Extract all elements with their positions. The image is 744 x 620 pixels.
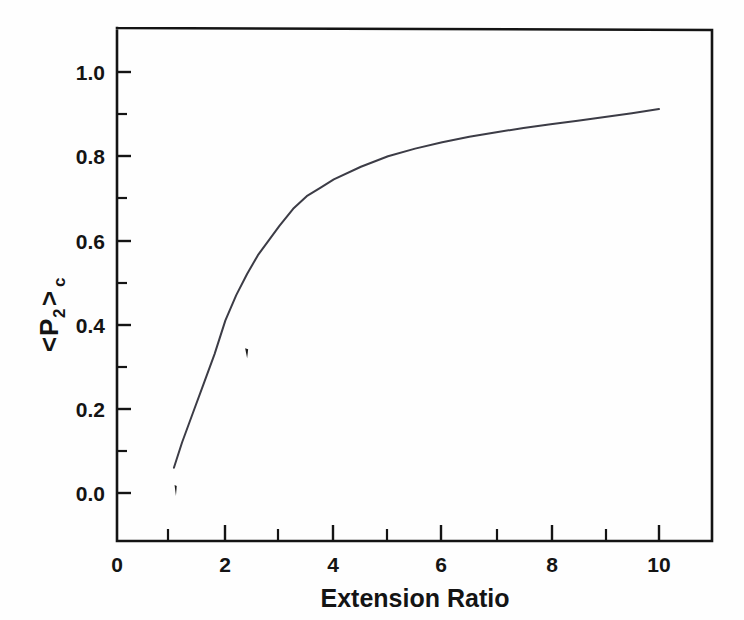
x-tick-label-8: 8: [546, 553, 558, 576]
x-tick-label-0: 0: [111, 553, 123, 576]
y-tick-label-0.4: 0.4: [76, 314, 106, 337]
y-tick-label-0.8: 0.8: [76, 145, 106, 168]
x-tick-label-6: 6: [435, 553, 447, 576]
x-axis-title: Extension Ratio: [321, 584, 510, 612]
chart-figure: 1.0 0.8 0.6 0.4 0.2 0.0 0 2 4 6 8: [0, 0, 744, 620]
y-axis-title: < P 2 > c: [34, 278, 69, 352]
y-tick-label-0.6: 0.6: [76, 230, 105, 253]
y-tick-label-1.0: 1.0: [76, 61, 105, 84]
y-axis-title-open-bracket: <: [34, 337, 64, 352]
x-tick-label-2: 2: [219, 553, 231, 576]
y-tick-label-0.2: 0.2: [76, 398, 105, 421]
y-axis-ticks: [117, 72, 131, 493]
data-curve: [174, 109, 659, 468]
x-tick-label-4: 4: [327, 553, 339, 576]
stray-scan-mark: [245, 348, 248, 358]
y-axis-tick-labels: 1.0 0.8 0.6 0.4 0.2 0.0: [76, 61, 106, 505]
y-axis-title-subscript: 2: [50, 309, 69, 318]
x-axis-ticks: [168, 525, 659, 541]
y-tick-label-0.0: 0.0: [76, 482, 105, 505]
x-tick-label-10: 10: [647, 553, 670, 576]
curve-start-fragment: [175, 485, 177, 496]
x-axis-tick-labels: 0 2 4 6 8 10: [111, 553, 671, 576]
axes-frame: [117, 28, 712, 541]
y-axis-title-outer-subscript: c: [50, 278, 69, 287]
y-axis-title-symbol: P: [34, 319, 64, 336]
y-axis-title-close-bracket: >: [34, 291, 64, 306]
chart-canvas: 1.0 0.8 0.6 0.4 0.2 0.0 0 2 4 6 8: [0, 0, 744, 620]
plot-border: [117, 28, 712, 541]
